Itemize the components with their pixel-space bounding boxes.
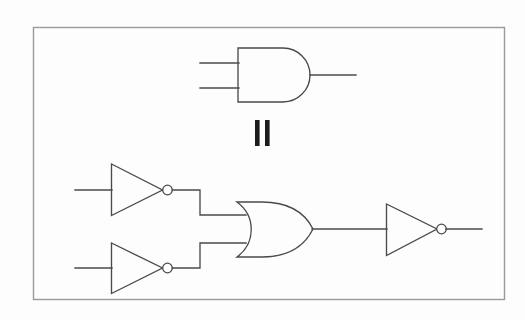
diagram-frame [34, 28, 505, 300]
not-gate-bottom-triangle [112, 243, 163, 294]
logic-diagram-root [0, 0, 525, 320]
not-gate-bottom-group [75, 243, 172, 294]
and-gate-group [200, 48, 356, 102]
not-gate-bottom-bubble-icon [163, 263, 173, 273]
and-gate-body [238, 48, 310, 102]
or-gate-group [237, 202, 387, 257]
circuit-diagram [0, 0, 525, 320]
not-gate-top-bubble-icon [163, 185, 173, 195]
not-gate-output-triangle [387, 204, 438, 256]
equals-bar-right [265, 120, 270, 146]
wire-top-not-to-or [172, 190, 246, 215]
not-gate-top-group [75, 164, 172, 216]
not-gate-output-group [387, 204, 483, 256]
equals-sign-rotated-icon [255, 120, 270, 146]
not-gate-output-bubble-icon [437, 224, 447, 234]
wire-bottom-not-to-or [172, 243, 246, 268]
not-gate-top-triangle [112, 164, 163, 216]
or-gate-body [237, 202, 313, 257]
equals-bar-left [255, 120, 260, 146]
